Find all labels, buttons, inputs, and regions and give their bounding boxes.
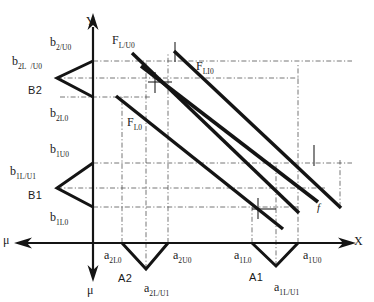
triangle-a2 bbox=[122, 243, 168, 269]
label-f-lu0: FL/U0 bbox=[112, 31, 135, 50]
label-f-small: f bbox=[317, 202, 320, 213]
y-axis-label: Y bbox=[86, 15, 95, 27]
label-a2-right: a2U0 bbox=[173, 246, 192, 265]
label-f-l0: FL0 bbox=[127, 113, 142, 132]
label-a1-right: a1U0 bbox=[303, 246, 322, 265]
label-b1-left: b1L/U1 bbox=[10, 162, 36, 181]
triangle-b1 bbox=[57, 163, 93, 207]
label-a2-apex: a2L/U1 bbox=[144, 279, 169, 298]
diagonal-ticks bbox=[148, 42, 314, 219]
x-axis-label: X bbox=[354, 235, 363, 247]
construction-guides bbox=[57, 53, 352, 269]
label-b2-lower: b2L0 bbox=[50, 104, 68, 123]
triangle-b2 bbox=[57, 61, 93, 97]
label-group-b1: B1 bbox=[28, 190, 42, 201]
diagonal-band bbox=[141, 66, 318, 202]
mu-down-label: μ bbox=[87, 284, 93, 296]
label-b1-lower: b1L0 bbox=[50, 208, 68, 227]
diagram-canvas: X Y μ μ b2/U0 b2L/U0 B2 b2L0 b1U0 b1L/U1… bbox=[0, 0, 374, 302]
label-b1-upper: b1U0 bbox=[50, 140, 69, 159]
label-group-b2: B2 bbox=[28, 85, 42, 96]
label-group-a1: A1 bbox=[249, 272, 263, 283]
mu-left-label: μ bbox=[3, 234, 9, 246]
label-b2-upper: b2/U0 bbox=[50, 33, 71, 52]
label-b2-left: b2L/U0 bbox=[12, 52, 42, 71]
label-a1-apex: a1L/U1 bbox=[274, 278, 299, 297]
label-a2-left: a2L0 bbox=[104, 246, 122, 265]
label-a1-left: a1L0 bbox=[234, 246, 252, 265]
triangle-a1 bbox=[252, 243, 298, 266]
label-f-u0: FLI0 bbox=[196, 57, 214, 76]
label-group-a2: A2 bbox=[118, 273, 132, 284]
